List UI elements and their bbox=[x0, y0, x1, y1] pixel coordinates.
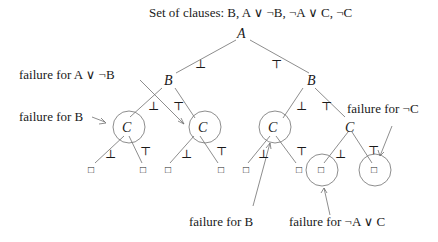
edge-label-false: ⊥ bbox=[148, 100, 159, 112]
leaf-empty-clause: □ bbox=[88, 165, 94, 175]
edge-label-true: ⊤ bbox=[271, 58, 282, 70]
leaf-empty-clause: □ bbox=[218, 165, 224, 175]
clause-set-title: Set of clauses: B, A ∨ ¬B, ¬A ∨ C, ¬C bbox=[149, 6, 352, 19]
leaf-empty-clause: □ bbox=[318, 165, 324, 175]
edge-label-true: ⊤ bbox=[140, 145, 151, 157]
edge-label-false: ⊥ bbox=[105, 148, 116, 160]
annotation-failure-not-c: failure for ¬C bbox=[347, 102, 419, 115]
annotation-failure-b-left: failure for B bbox=[19, 110, 83, 123]
leaf-empty-clause: □ bbox=[165, 165, 171, 175]
annotation-failure-a-or-not-b: failure for A ∨ ¬B bbox=[19, 68, 115, 81]
node-b-right: B bbox=[307, 74, 316, 88]
leaf-empty-clause: □ bbox=[371, 165, 377, 175]
node-c3: C bbox=[268, 121, 277, 135]
leaf-empty-clause: □ bbox=[296, 165, 302, 175]
node-c1: C bbox=[122, 121, 131, 135]
node-root-a: A bbox=[237, 27, 246, 41]
edge-label-false: ⊥ bbox=[258, 148, 269, 160]
edge-label-true: ⊤ bbox=[216, 145, 227, 157]
annotation-failure-b-bottom: failure for B bbox=[189, 215, 253, 228]
node-c2: C bbox=[198, 121, 207, 135]
edge-label-false: ⊥ bbox=[181, 148, 192, 160]
node-b-left: B bbox=[164, 74, 173, 88]
edge-label-true: ⊤ bbox=[368, 144, 379, 156]
edge-label-false: ⊥ bbox=[296, 100, 307, 112]
node-c4: C bbox=[345, 121, 354, 135]
edge-label-false: ⊥ bbox=[195, 58, 206, 70]
annotation-failure-not-a-or-c: failure for ¬A ∨ C bbox=[289, 215, 385, 228]
edge-label-true: ⊤ bbox=[321, 100, 332, 112]
leaf-empty-clause: □ bbox=[140, 165, 146, 175]
edge-label-false: ⊥ bbox=[335, 148, 346, 160]
edge-label-true: ⊤ bbox=[296, 145, 307, 157]
leaf-empty-clause: □ bbox=[243, 165, 249, 175]
edge-label-true: ⊤ bbox=[173, 100, 184, 112]
